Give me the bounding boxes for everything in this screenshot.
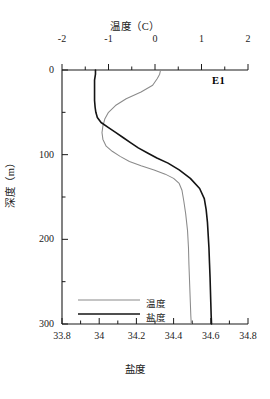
bottom-axis-title: 盐度	[0, 361, 270, 376]
legend-label-salinity: 盐度	[146, 310, 166, 324]
bottom-tick-label: 34.8	[231, 330, 265, 341]
top-tick-label: -2	[47, 33, 77, 44]
temperature-salinity-profile-chart: 温度（C） 深度（m） 盐度 E1 -2 -1 0 1 2 33.8 34 34…	[0, 0, 270, 399]
top-axis-title: 温度（C）	[0, 18, 270, 33]
ticks-group	[62, 64, 248, 324]
series-line-salinity	[95, 70, 212, 324]
left-axis-title: 深度（m）	[2, 148, 17, 218]
series-group	[95, 70, 212, 324]
bottom-tick-label: 34.4	[157, 330, 191, 341]
left-tick-label: 300	[20, 318, 54, 329]
series-line-temperature	[102, 70, 191, 324]
legend-sample-lines	[78, 300, 140, 314]
station-label: E1	[212, 75, 225, 86]
axes-group	[62, 70, 248, 324]
bottom-tick-label: 34.2	[119, 330, 153, 341]
left-tick-label: 0	[20, 64, 54, 75]
top-tick-label: 0	[140, 33, 170, 44]
top-tick-label: -1	[94, 33, 124, 44]
left-tick-label: 100	[20, 149, 54, 160]
legend-label-temperature: 温度	[146, 296, 166, 310]
left-tick-label: 200	[20, 233, 54, 244]
bottom-tick-label: 34	[82, 330, 116, 341]
bottom-tick-label: 33.8	[45, 330, 79, 341]
bottom-tick-label: 34.6	[194, 330, 228, 341]
top-tick-label: 2	[233, 33, 263, 44]
top-tick-label: 1	[187, 33, 217, 44]
